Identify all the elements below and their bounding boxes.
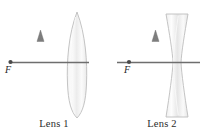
lens-2-focal-point-label: F	[124, 64, 130, 75]
object-arrow-head	[152, 30, 159, 42]
lens-2-caption: Lens 2	[108, 118, 216, 129]
lens-1-focal-point-label: F	[5, 64, 11, 75]
object-arrow-head	[37, 30, 44, 42]
converging-lens-shape	[67, 12, 86, 118]
lens-2-panel: F Lens 2	[108, 0, 216, 135]
lens-1-diagram	[0, 0, 108, 135]
lens-1-caption: Lens 1	[0, 118, 108, 129]
lens-1-panel: F Lens 1	[0, 0, 108, 135]
optics-figure: F Lens 1	[0, 0, 216, 135]
